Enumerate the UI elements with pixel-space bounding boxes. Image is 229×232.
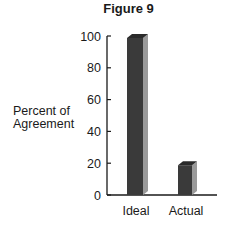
y-tick-label: 60 [87,93,101,107]
x-category-label: Ideal [122,204,149,218]
bar-chart: 020406080100IdealActual [0,0,229,232]
y-tick-label: 100 [80,30,101,44]
y-tick-label: 80 [87,61,101,75]
bar-actual [178,161,197,195]
x-category-label: Actual [169,204,204,218]
y-tick-label: 40 [87,125,101,139]
bar-ideal [127,34,148,195]
y-tick-label: 20 [87,157,101,171]
y-tick-label: 0 [94,189,101,203]
